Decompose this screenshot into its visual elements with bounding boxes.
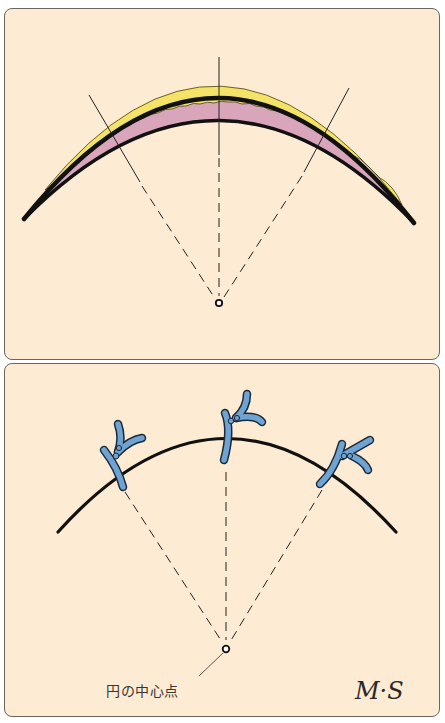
chromosome-marker-left <box>104 424 142 487</box>
circle-center-point-bottom <box>223 646 230 653</box>
chromosome-marker-center <box>224 394 262 460</box>
chromosome-marker-right <box>320 440 370 484</box>
radial-line-left-dashed <box>142 186 214 297</box>
center-label-leader-line <box>199 653 223 676</box>
center-point-label: 円の中心点 <box>106 680 179 700</box>
bottom-radial-lines <box>125 472 322 642</box>
bottom-radial-line-right <box>230 490 322 642</box>
circle-center-point-top <box>216 300 222 306</box>
radial-line-right-dashed <box>224 176 302 297</box>
top-radial-lines <box>89 57 349 297</box>
illustration <box>0 0 445 723</box>
bottom-radial-line-left <box>125 492 222 642</box>
artist-signature: M·S <box>355 677 404 705</box>
